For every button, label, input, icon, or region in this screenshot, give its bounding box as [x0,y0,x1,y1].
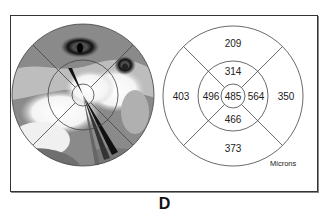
units-label: Microns [270,159,297,168]
grayscale-thickness-map [10,20,160,170]
etdrs-values: 485 314 496 564 466 209 403 350 373 Micr… [173,38,297,168]
value-inner-inferior: 466 [225,114,242,125]
figure-canvas: 485 314 496 564 466 209 403 350 373 Micr… [0,0,329,215]
value-outer-inferior: 373 [225,143,242,154]
figure-caption: D [0,195,329,213]
value-outer-superior: 209 [225,38,242,49]
value-inner-superior: 314 [225,66,242,77]
value-center: 485 [225,91,242,102]
value-outer-right: 350 [278,91,295,102]
value-inner-left: 496 [203,91,220,102]
value-outer-left: 403 [173,91,190,102]
value-inner-right: 564 [248,91,265,102]
